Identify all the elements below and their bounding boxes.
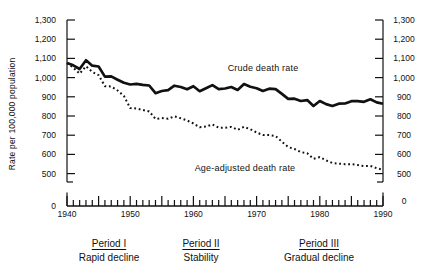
crude-death-rate-label: Crude death rate (228, 63, 299, 73)
right-y-tick-label: 600 (397, 149, 411, 159)
right-y-tick-label: 700 (397, 130, 411, 140)
x-axis-decade-label: 1960 (184, 209, 203, 219)
chart-canvas: Rate per 100,000 population 500500600600… (0, 0, 435, 234)
right-y-tick-label: 800 (397, 111, 411, 121)
series-lines (67, 60, 383, 170)
period-2-title: Period II (141, 238, 261, 249)
period-2-subtitle: Stability (141, 252, 261, 263)
left-zero-label: 0 (51, 201, 56, 211)
axes: 5005006006007007008008009009001,0001,000… (35, 15, 415, 219)
period-2-block: Period II Stability (141, 238, 261, 263)
right-y-tick-label: 500 (397, 169, 411, 179)
age-adjusted-death-rate-label: Age-adjusted death rate (195, 163, 296, 173)
right-y-tick-label: 1,000 (393, 73, 415, 83)
period-3-title: Period III (249, 238, 389, 249)
right-y-tick-label: 1,100 (393, 53, 415, 63)
left-y-tick-label: 600 (42, 149, 56, 159)
right-y-tick-label: 1,300 (393, 15, 415, 25)
left-y-tick-label: 900 (42, 92, 56, 102)
period-annotations: Period I Rapid decline Period II Stabili… (0, 234, 435, 279)
left-y-tick-label: 700 (42, 130, 56, 140)
right-zero-label: 0 (402, 196, 407, 206)
left-y-tick-label: 1,100 (35, 53, 57, 63)
x-axis-decade-label: 1970 (247, 209, 266, 219)
x-axis-decade-label: 1980 (310, 209, 329, 219)
y-axis-title: Rate per 100,000 population (7, 58, 17, 171)
period-3-subtitle: Gradual decline (249, 252, 389, 263)
death-rate-trend-figure: Rate per 100,000 population 500500600600… (0, 0, 435, 279)
right-y-tick-label: 1,200 (393, 34, 415, 44)
x-axis-decade-label: 1940 (58, 209, 77, 219)
right-y-tick-label: 900 (397, 92, 411, 102)
x-axis-decade-label: 1990 (374, 209, 393, 219)
left-y-tick-label: 1,200 (35, 34, 57, 44)
left-y-tick-label: 1,300 (35, 15, 57, 25)
crude-death-rate-line (67, 60, 383, 106)
period-3-block: Period III Gradual decline (249, 238, 389, 263)
left-y-tick-label: 500 (42, 169, 56, 179)
left-y-tick-label: 1,000 (35, 73, 57, 83)
x-axis-decade-label: 1950 (121, 209, 140, 219)
left-y-tick-label: 800 (42, 111, 56, 121)
